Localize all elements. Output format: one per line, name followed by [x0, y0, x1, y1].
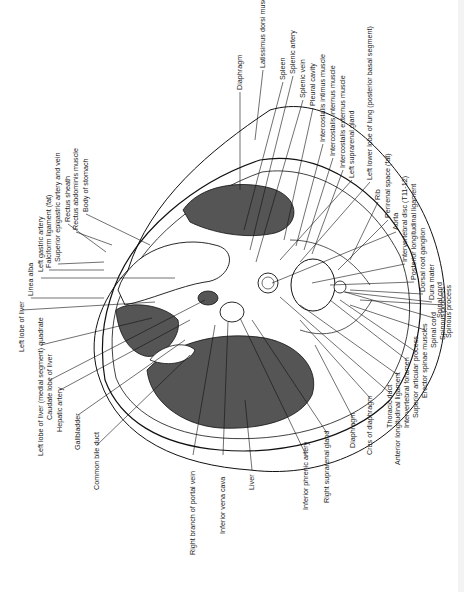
anatomy-label: Body of stomach: [82, 158, 89, 212]
anatomy-label: Liver: [248, 474, 255, 490]
anatomy-label: Gallbladder: [74, 413, 81, 450]
anatomy-label: Spinal cord: [430, 312, 437, 348]
anatomy-label: Rectus sheath: [64, 176, 71, 222]
anatomy-label: Inferior vena cava: [219, 477, 226, 534]
anatomy-label: Intercostalis intimus muscle: [319, 54, 326, 142]
anatomy-label: Spinous process: [439, 287, 446, 340]
anatomy-label: Anterior longitudinal ligament: [394, 372, 401, 465]
anatomy-label: Intercostalis internus muscle: [329, 65, 336, 156]
anatomy-label: Left lobe of liver: [18, 301, 25, 352]
anatomy-label: Rib: [374, 189, 381, 200]
anatomy-label: Intercostalis externus muscle: [339, 75, 346, 168]
anatomy-label: Dorsal root ganglion: [419, 228, 426, 292]
anatomy-label: Right branch of portal vein: [189, 471, 196, 555]
aorta: [258, 273, 278, 293]
anatomy-label: Left gastric artery: [37, 216, 44, 272]
anatomy-label: Right suprarenal gland: [323, 431, 330, 503]
anatomy-label: Linea alba: [27, 263, 34, 296]
anatomy-label: Pleural cavity: [309, 63, 316, 106]
spinal-canal: [334, 281, 346, 293]
spleen: [183, 184, 294, 235]
anatomy-label: Falciform ligament (fat): [45, 195, 52, 269]
caudate-lobe: [198, 291, 218, 305]
cross-section-drawing: [0, 0, 464, 592]
page-edge: [458, 0, 464, 592]
anatomy-label: Inferior phrenic artery: [302, 442, 309, 510]
anatomy-label: Caudate lobe of liver: [46, 354, 53, 420]
anatomy-label: Posterior longitudinal ligament: [410, 184, 417, 280]
vertebral-body: [291, 259, 335, 311]
anatomy-label: Left lower lobe of lung (posterior basal…: [366, 26, 373, 180]
anatomy-label: Latissimus dorsi muscle: [259, 0, 266, 68]
anatomy-label: Left lobe of liver (medial segment) quad…: [37, 317, 44, 456]
anatomy-label: Rectus abdominis muscle: [72, 148, 79, 230]
anatomy-label: Perirenal space (fat): [384, 153, 391, 218]
anatomy-label: Superior epigastric artery and vein: [54, 153, 61, 262]
anatomy-label: Intervertebral disc (T11-12): [401, 176, 408, 262]
anatomy-label: Common bile duct: [93, 432, 100, 490]
anatomy-label: Diaphragm: [349, 413, 356, 448]
anatomy-figure: DiaphragmLatissimus dorsi muscleSpleenSp…: [0, 0, 464, 592]
anatomy-label: Left suprarenal gland: [348, 110, 355, 178]
anatomy-label: Splenic vein: [299, 59, 306, 98]
anatomy-label: Intervertebral foramen: [403, 357, 410, 428]
anatomy-label: Diaphragm: [236, 55, 243, 90]
anatomy-label: Hepatic artery: [56, 387, 63, 432]
anatomy-label: Splenic artery: [289, 30, 296, 74]
anatomy-label: Superior articular process: [412, 336, 419, 418]
anatomy-label: Spleen: [279, 58, 286, 80]
anatomy-label: Crus of diaphragm: [366, 396, 373, 455]
anatomy-label: Erector spinae muscles: [421, 323, 428, 398]
anatomy-label: Aorta: [392, 213, 399, 230]
